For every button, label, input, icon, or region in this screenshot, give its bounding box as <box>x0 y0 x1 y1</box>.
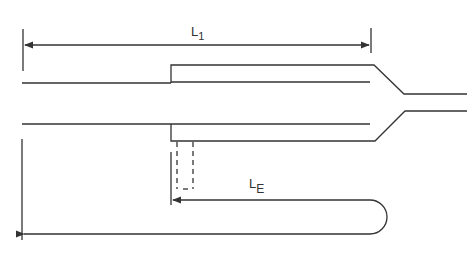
lower-tube-wall <box>22 111 467 141</box>
tube-diagram: L1 LE <box>0 0 475 254</box>
le-dimension-line <box>24 200 387 234</box>
upper-tube-wall <box>22 65 467 94</box>
lower-outer-sleeve <box>171 111 467 141</box>
le-label-main: L <box>249 176 256 191</box>
l1-label: L1 <box>191 24 204 42</box>
le-label-subscript: E <box>256 182 264 196</box>
upper-outer-sleeve <box>171 65 467 94</box>
dashed-insert <box>177 142 193 189</box>
le-label: LE <box>249 176 264 196</box>
le-dimension <box>22 139 387 240</box>
l1-label-main: L <box>191 24 198 39</box>
l1-label-subscript: 1 <box>198 30 204 42</box>
